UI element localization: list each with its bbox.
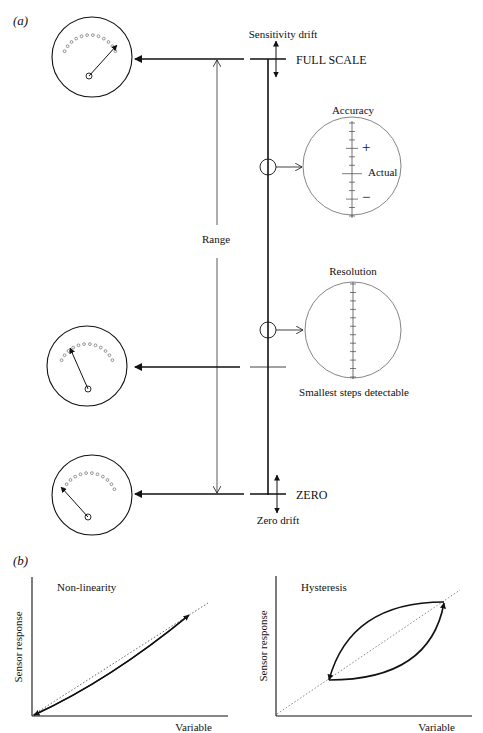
resolution-caption: Smallest steps detectable [299, 386, 409, 398]
scale-dot [102, 37, 105, 40]
scale-dot [72, 346, 75, 349]
scale-dot [94, 344, 97, 347]
scale-dot [83, 343, 86, 346]
scale-dot [108, 354, 111, 357]
sensitivity-drift-label: Sensitivity drift [249, 28, 318, 40]
scale-dot [96, 473, 99, 476]
accuracy-plus: + [362, 139, 370, 155]
panel-b-label: (b) [13, 553, 28, 568]
x-axis-label: Variable [175, 721, 212, 733]
mid-scale-dial [47, 326, 127, 406]
sensor-characteristics-figure: (a) Sensitivity drift FULL SCALE Range A… [0, 0, 483, 733]
scale-dot [70, 41, 73, 44]
scale-dot [113, 488, 116, 491]
full-scale-dial [52, 17, 132, 97]
scale-dot [75, 37, 78, 40]
resolution-title: Resolution [329, 265, 377, 277]
scale-dot [110, 483, 113, 486]
y-axis-label: Sensor response [12, 611, 24, 682]
scale-dot [77, 344, 80, 347]
scale-dot [111, 45, 114, 48]
scale-dot [63, 354, 66, 357]
plot-title: Hysteresis [301, 581, 347, 593]
scale-dot [99, 346, 102, 349]
decreasing-branch [329, 602, 444, 680]
scale-dot [91, 472, 94, 475]
accuracy-actual-label: Actual [368, 166, 397, 178]
non-linearity-plot: Non-linearity Variable Sensor response [12, 577, 228, 733]
scale-dot [80, 35, 83, 38]
range-label: Range [202, 233, 230, 245]
dial-needle [70, 348, 88, 389]
scale-dot [111, 359, 114, 362]
dial-scale-dots [63, 34, 117, 53]
scale-dot [69, 479, 72, 482]
resolution-inset [305, 282, 401, 379]
accuracy-minus: − [362, 189, 370, 205]
ideal-linear-line [277, 590, 460, 714]
plot-title: Non-linearity [57, 581, 117, 593]
x-axis-label: Variable [418, 721, 455, 733]
scale-dot [101, 475, 104, 478]
zero-drift-label: Zero drift [257, 514, 299, 526]
hysteresis-plot: Hysteresis Variable Sensor response [257, 576, 472, 733]
dial-needle [89, 45, 117, 76]
scale-dot [79, 473, 82, 476]
ideal-linear-line [33, 603, 208, 715]
scale-dot [89, 343, 92, 346]
scale-dot [114, 50, 117, 53]
zero-dial [52, 455, 132, 535]
scale-dot [85, 472, 88, 475]
scale-dot [74, 475, 77, 478]
scale-dot [63, 50, 66, 53]
dial-needle [61, 487, 88, 517]
zero-label: ZERO [296, 488, 328, 502]
scale-dot [66, 45, 69, 48]
dial-scale-dots [60, 343, 114, 362]
dial-scale-dots [62, 472, 116, 491]
scale-dot [60, 359, 63, 362]
panel-a-label: (a) [13, 13, 28, 28]
scale-dot [107, 41, 110, 44]
full-scale-label: FULL SCALE [296, 53, 367, 67]
accuracy-title: Accuracy [332, 104, 375, 116]
scale-dot [106, 479, 109, 482]
scale-dot [86, 34, 89, 37]
scale-dot [92, 34, 95, 37]
scale-dot [104, 350, 107, 353]
scale-dot [65, 483, 68, 486]
scale-dot [97, 35, 100, 38]
y-axis-label: Sensor response [257, 610, 269, 681]
scale-dot [67, 350, 70, 353]
